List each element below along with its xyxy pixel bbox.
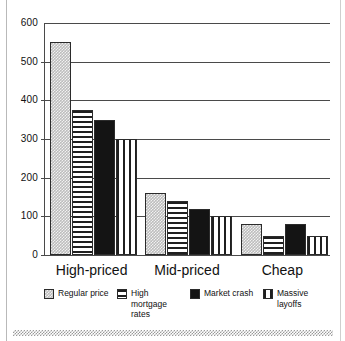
y-axis-tick	[41, 62, 45, 63]
legend-swatch-icon	[44, 289, 54, 299]
bar	[116, 139, 137, 255]
bar	[145, 193, 166, 255]
category-label-cheap: Cheap	[235, 262, 330, 278]
y-axis-tick	[41, 178, 45, 179]
y-axis-tick-label: 500	[4, 57, 38, 67]
gridline-400	[44, 100, 330, 101]
y-axis-tick-label: 400	[4, 95, 38, 105]
legend-label: High mortgage rates	[131, 288, 183, 320]
bar	[307, 236, 328, 255]
bar	[94, 120, 115, 255]
chart-legend: Regular priceHigh mortgage ratesMarket c…	[44, 288, 334, 336]
decorative-hatch-strip	[13, 330, 333, 336]
bar	[50, 42, 71, 255]
bar	[285, 224, 306, 255]
bar	[72, 110, 93, 255]
gridline-0	[44, 255, 330, 256]
gridline-600	[44, 23, 330, 24]
bar	[167, 201, 188, 255]
bar	[211, 216, 232, 255]
legend-label: Regular price	[58, 288, 109, 299]
bar	[263, 236, 284, 255]
y-axis-tick-label: 600	[4, 18, 38, 28]
legend-item[interactable]: Regular price	[44, 288, 109, 299]
y-axis-labels: 0100200300400500600	[0, 0, 38, 341]
legend-item[interactable]: Massive layoffs	[263, 288, 329, 309]
y-axis-tick-label: 300	[4, 134, 38, 144]
legend-label: Market crash	[204, 288, 253, 299]
y-axis-tick	[41, 139, 45, 140]
y-axis-tick-label: 200	[4, 173, 38, 183]
bar	[189, 209, 210, 255]
legend-swatch-icon	[117, 289, 127, 299]
legend-item[interactable]: Market crash	[190, 288, 253, 299]
bar	[241, 224, 262, 255]
y-axis-tick	[41, 255, 45, 256]
page-border-right	[340, 0, 341, 341]
legend-swatch-icon	[263, 289, 273, 299]
category-label-high-priced: High-priced	[44, 262, 139, 278]
plot-area	[44, 23, 330, 255]
category-label-mid-priced: Mid-priced	[139, 262, 234, 278]
legend-label: Massive layoffs	[277, 288, 329, 309]
legend-swatch-icon	[190, 289, 200, 299]
y-axis-tick	[41, 100, 45, 101]
y-axis-tick-label: 0	[4, 250, 38, 260]
y-axis-tick	[41, 216, 45, 217]
category-labels: High-pricedMid-pricedCheap	[44, 262, 330, 282]
legend-item[interactable]: High mortgage rates	[117, 288, 183, 320]
y-axis-tick-label: 100	[4, 211, 38, 221]
gridline-500	[44, 62, 330, 63]
